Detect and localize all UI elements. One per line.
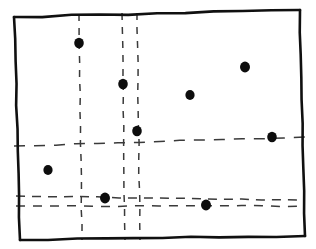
data-point xyxy=(201,200,211,211)
horizontal-gridline xyxy=(16,206,303,207)
data-point-group xyxy=(43,38,276,211)
data-point xyxy=(185,90,194,100)
data-point xyxy=(43,165,52,175)
data-point xyxy=(132,126,142,136)
horizontal-gridline-group xyxy=(14,137,305,207)
plot-border-edge xyxy=(20,236,305,240)
plot-border-edge xyxy=(14,10,300,17)
data-point xyxy=(267,132,277,142)
horizontal-gridline xyxy=(16,196,303,200)
data-point xyxy=(74,38,84,48)
plot-border-edge xyxy=(300,10,305,236)
data-point xyxy=(118,79,128,89)
figure-canvas xyxy=(0,0,316,249)
scatter-plot-svg xyxy=(0,0,316,249)
horizontal-gridline xyxy=(14,137,305,146)
data-point xyxy=(100,193,110,204)
data-point xyxy=(240,62,250,73)
